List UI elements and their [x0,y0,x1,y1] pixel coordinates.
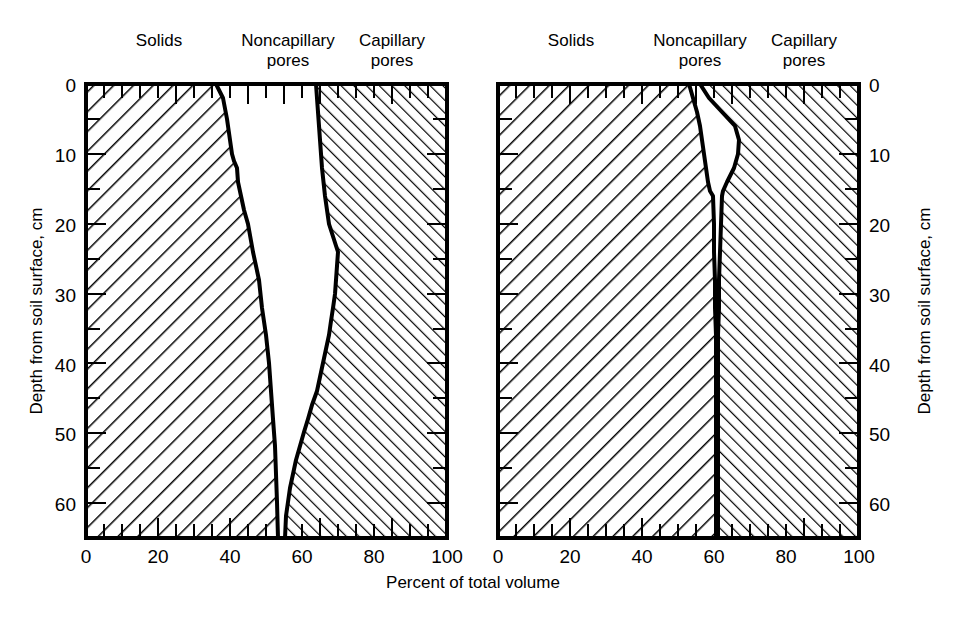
x-axis-title: Percent of total volume [386,573,560,592]
right-y-axis-title: Depth from soil surface, cm [915,208,934,415]
right-ytick-40: 40 [869,355,890,376]
right-ytick-0: 0 [869,75,880,96]
soil-porosity-figure: Solids Noncapillary pores Capillary pore… [0,0,958,621]
left-xtick-60: 60 [291,546,312,567]
right-xtick-80: 80 [775,546,796,567]
right-ytick-10: 10 [869,145,890,166]
left-label-capillary-line2: pores [371,51,414,70]
right-label-solids: Solids [548,31,594,50]
right-ytick-50: 50 [869,424,890,445]
left-panel: Solids Noncapillary pores Capillary pore… [27,31,463,567]
right-ytick-30: 30 [869,285,890,306]
right-label-capillary-line1: Capillary [771,31,838,50]
left-ytick-20: 20 [55,215,76,236]
left-label-solids: Solids [136,31,182,50]
left-xtick-0: 0 [81,546,92,567]
right-label-noncapillary-line2: pores [679,51,722,70]
left-ytick-0: 0 [65,75,76,96]
right-ytick-60: 60 [869,494,890,515]
left-ytick-30: 30 [55,285,76,306]
right-label-capillary-line2: pores [783,51,826,70]
left-ytick-40: 40 [55,355,76,376]
left-ytick-60: 60 [55,494,76,515]
left-xtick-80: 80 [363,546,384,567]
right-xtick-60: 60 [703,546,724,567]
right-xtick-40: 40 [631,546,652,567]
right-xtick-100: 100 [843,546,875,567]
figure-svg: Solids Noncapillary pores Capillary pore… [0,0,958,621]
left-xtick-40: 40 [219,546,240,567]
left-y-axis-title: Depth from soil surface, cm [27,208,46,415]
right-xtick-20: 20 [559,546,580,567]
right-label-noncapillary-line1: Noncapillary [653,31,747,50]
right-xtick-0: 0 [493,546,504,567]
left-label-capillary-line1: Capillary [359,31,426,50]
left-ytick-50: 50 [55,424,76,445]
left-label-noncapillary-line1: Noncapillary [241,31,335,50]
left-xtick-100: 100 [431,546,463,567]
right-region-solids [498,84,716,538]
left-xtick-20: 20 [147,546,168,567]
left-ytick-10: 10 [55,145,76,166]
left-label-noncapillary-line2: pores [267,51,310,70]
right-ytick-20: 20 [869,215,890,236]
right-plot-regions [498,84,859,538]
